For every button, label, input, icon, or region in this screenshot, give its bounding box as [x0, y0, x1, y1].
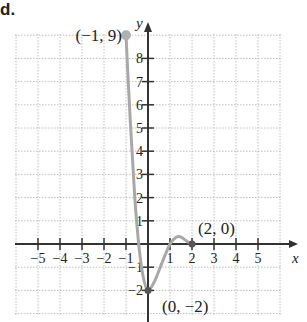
x-tick-label: 1 [167, 251, 174, 266]
y-tick-label: 5 [136, 121, 143, 136]
x-tick-label: 2 [189, 251, 196, 266]
x-tick-label: −3 [75, 251, 90, 266]
point-marker [189, 241, 196, 248]
tick-marks: −5−4−3−2−112345−2−112345678 [31, 51, 262, 298]
function-curve [126, 35, 192, 290]
x-tick-label: 3 [211, 251, 218, 266]
y-tick-label: 7 [136, 75, 143, 90]
point-label: (0, −2) [162, 297, 208, 316]
point-marker [145, 287, 152, 294]
y-tick-label: 8 [136, 51, 143, 66]
y-tick-label: 3 [136, 167, 143, 182]
x-axis-label: x [291, 250, 299, 266]
curve-path [126, 35, 192, 290]
x-tick-label: 4 [233, 251, 240, 266]
x-tick-label: −2 [97, 251, 112, 266]
y-tick-label: −2 [128, 283, 143, 298]
labeled-points: (−1, 9)(0, −2)(2, 0) [76, 26, 235, 316]
y-axis-arrow-icon [144, 22, 152, 32]
x-axis-arrow-icon [289, 240, 298, 248]
x-tick-label: 5 [255, 251, 262, 266]
y-axis-label: y [134, 15, 143, 31]
y-tick-label: 2 [136, 191, 143, 206]
coordinate-plot: xy −5−4−3−2−112345−2−112345678 (−1, 9)(0… [0, 0, 307, 322]
x-tick-label: −4 [53, 251, 68, 266]
point-label: (−1, 9) [76, 26, 122, 45]
point-marker [121, 30, 131, 40]
y-tick-label: 4 [136, 144, 143, 159]
y-tick-label: 6 [136, 98, 143, 113]
x-tick-label: −5 [31, 251, 46, 266]
point-label: (2, 0) [198, 219, 235, 238]
